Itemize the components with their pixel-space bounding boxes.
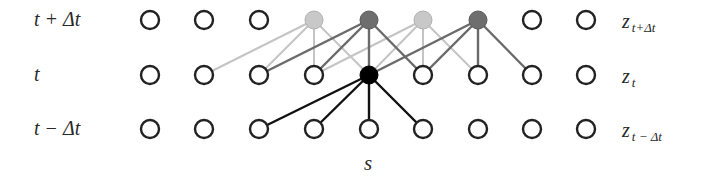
node-bottom-7-empty [523, 120, 541, 138]
node-bottom-4-empty [360, 120, 378, 138]
node-top-1-empty [195, 11, 213, 29]
node-top-7-empty [523, 11, 541, 29]
node-mid-8-empty [577, 66, 595, 84]
node-bottom-8-empty [577, 120, 595, 138]
row-label-bottom: t − Δt [34, 118, 80, 138]
z-symbol: z [622, 10, 630, 32]
axis-label-s: s [364, 153, 372, 174]
z-label-mid: zt [622, 66, 635, 89]
center-edge [369, 75, 423, 129]
node-bottom-6-empty [469, 120, 487, 138]
node-mid-4-center [360, 66, 378, 84]
node-mid-5-empty [414, 66, 432, 84]
z-symbol: z [622, 65, 630, 87]
node-top-2-empty [250, 11, 268, 29]
node-bottom-2-empty [250, 120, 268, 138]
light-edge [259, 20, 314, 75]
node-mid-1-empty [195, 66, 213, 84]
node-mid-7-empty [523, 66, 541, 84]
z-subscript: t − Δt [632, 129, 662, 144]
z-subscript: t+Δt [632, 20, 656, 35]
z-label-bottom: zt − Δt [622, 120, 662, 143]
lattice-diagram [0, 0, 712, 184]
node-bottom-1-empty [195, 120, 213, 138]
row-label-mid: t [34, 64, 40, 84]
dark-edge [478, 20, 532, 75]
z-subscript: t [632, 75, 636, 90]
node-mid-3-empty [305, 66, 323, 84]
node-top-6-dark [469, 11, 487, 29]
node-top-5-light [414, 11, 432, 29]
z-label-top: zt+Δt [622, 11, 655, 34]
node-bottom-5-empty [414, 120, 432, 138]
node-top-0-empty [141, 11, 159, 29]
node-mid-2-empty [250, 66, 268, 84]
center-edge [314, 75, 369, 129]
node-mid-0-empty [141, 66, 159, 84]
node-top-4-dark [360, 11, 378, 29]
node-mid-6-empty [469, 66, 487, 84]
z-symbol: z [622, 119, 630, 141]
node-top-3-light [305, 11, 323, 29]
node-bottom-3-empty [305, 120, 323, 138]
node-bottom-0-empty [141, 120, 159, 138]
row-label-top: t + Δt [34, 9, 80, 29]
node-top-8-empty [577, 11, 595, 29]
